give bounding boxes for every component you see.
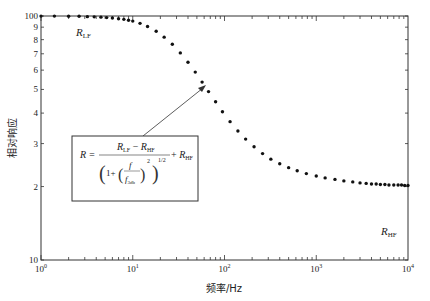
data-point — [127, 19, 130, 22]
data-point — [194, 70, 197, 73]
data-point — [138, 22, 141, 25]
y-tick-label: 10 — [29, 255, 39, 265]
data-point — [400, 183, 403, 186]
formula-box: R = RLF − RHF ( 1+ ( f f3db ) 2 ) 1/2 + … — [72, 136, 198, 201]
data-point — [278, 162, 281, 165]
data-point — [244, 137, 247, 140]
data-point — [105, 16, 108, 19]
data-point — [315, 174, 318, 177]
data-point — [403, 184, 406, 187]
data-point — [269, 157, 272, 160]
data-point — [364, 182, 367, 185]
y-tick-label: 100 — [25, 11, 39, 21]
data-point — [370, 182, 373, 185]
data-point — [379, 183, 382, 186]
y-tick-label: 6 — [34, 65, 39, 75]
y-axis-title: 相对响应 — [6, 118, 18, 158]
data-point — [67, 15, 70, 18]
data-point — [207, 90, 210, 93]
x-tick-label: 104 — [402, 263, 414, 274]
data-point — [200, 80, 203, 83]
svg-text:): ) — [140, 166, 145, 184]
y-axis-tick-labels: 1023456789100 — [25, 11, 39, 265]
data-point — [171, 43, 174, 46]
data-point — [236, 129, 239, 132]
data-point — [53, 14, 56, 17]
y-tick-label: 4 — [34, 108, 39, 118]
formula-power-half: 1/2 — [158, 157, 166, 163]
x-tick-label: 102 — [219, 263, 231, 274]
data-point — [86, 15, 89, 18]
formula-power-2: 2 — [147, 158, 150, 164]
data-point — [261, 152, 264, 155]
data-point — [305, 172, 308, 175]
data-point — [323, 176, 326, 179]
r-lf-annotation: RLF — [75, 26, 91, 40]
svg-text:(: ( — [99, 162, 106, 185]
chart: 100101102103104 1023456789100 频率/Hz 相对响应… — [0, 0, 430, 301]
data-point — [296, 169, 299, 172]
data-point — [131, 19, 134, 22]
data-point — [287, 166, 290, 169]
annotation-arrow — [143, 85, 206, 136]
data-point — [214, 100, 217, 103]
data-point — [92, 15, 95, 18]
data-point — [186, 61, 189, 64]
x-tick-label: 103 — [310, 263, 322, 274]
data-point — [228, 120, 231, 123]
data-point — [154, 30, 157, 33]
data-point — [333, 178, 336, 181]
data-point — [342, 179, 345, 182]
y-tick-label: 8 — [34, 35, 39, 45]
data-point — [351, 180, 354, 183]
data-point — [221, 110, 224, 113]
y-tick-label: 2 — [34, 182, 39, 192]
data-point — [117, 17, 120, 20]
x-tick-label: 101 — [127, 263, 139, 274]
data-point — [39, 14, 42, 17]
data-point — [396, 183, 399, 186]
r-hf-annotation: RHF — [380, 225, 397, 239]
data-point — [111, 16, 114, 19]
y-tick-label: 5 — [34, 84, 39, 94]
svg-text:(: ( — [118, 166, 123, 184]
data-point — [374, 182, 377, 185]
data-point — [146, 25, 149, 28]
y-tick-label: 9 — [34, 22, 39, 32]
data-point — [162, 35, 165, 38]
data-point — [392, 183, 395, 186]
data-point — [387, 183, 390, 186]
x-axis-tick-labels: 100101102103104 — [35, 263, 414, 274]
y-tick-label: 7 — [34, 49, 39, 59]
formula-one-plus: 1+ — [106, 168, 116, 178]
data-point — [122, 18, 125, 21]
x-axis-title: 频率/Hz — [206, 282, 242, 294]
data-point — [406, 184, 409, 187]
data-point — [358, 181, 361, 184]
data-point — [383, 183, 386, 186]
svg-text:): ) — [152, 162, 159, 185]
y-tick-label: 3 — [34, 139, 39, 149]
data-point — [99, 15, 102, 18]
data-point — [179, 51, 182, 54]
data-point — [252, 145, 255, 148]
formula-lhs: R = — [79, 149, 95, 160]
data-point — [77, 15, 80, 18]
